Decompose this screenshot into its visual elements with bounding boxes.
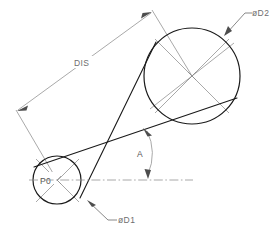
p0-label: P0 bbox=[40, 176, 51, 186]
crossed-belt-group bbox=[34, 42, 237, 198]
cad-drawing-svg: DIS P0 bbox=[0, 0, 275, 236]
dis-extension-line-right bbox=[152, 10, 192, 76]
technical-drawing-canvas: DIS P0 bbox=[0, 0, 275, 236]
arrow-head-icon bbox=[143, 128, 152, 137]
large-pulley-group bbox=[144, 28, 240, 124]
arrow-head-icon bbox=[87, 200, 96, 207]
arrow-head-icon bbox=[141, 12, 152, 19]
d1-label: øD1 bbox=[118, 215, 135, 225]
angle-label: A bbox=[137, 149, 143, 159]
arrow-head-icon bbox=[145, 169, 152, 179]
angle-dimension-group: A bbox=[136, 128, 152, 179]
belt-tangent-line-2 bbox=[34, 98, 237, 167]
arrow-head-icon bbox=[224, 26, 232, 36]
d2-label: øD2 bbox=[252, 8, 269, 18]
d2-leader-group: øD2 bbox=[224, 8, 269, 36]
dis-label: DIS bbox=[74, 58, 89, 68]
d1-leader-group: øD1 bbox=[87, 200, 135, 225]
dis-extension-line-left bbox=[16, 110, 57, 180]
center-cross-icon bbox=[188, 72, 196, 80]
